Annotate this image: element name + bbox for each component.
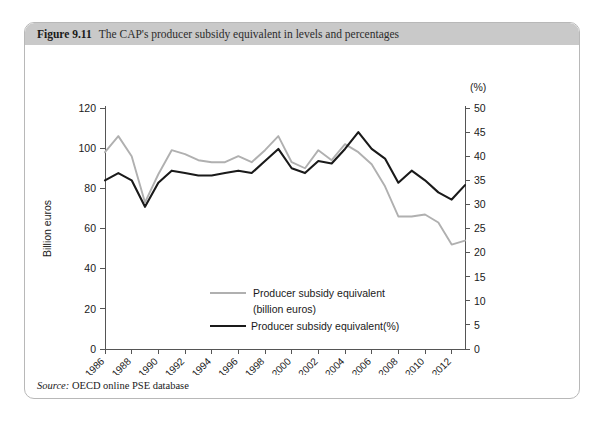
y2-axis-tick-label: 50 (474, 102, 486, 114)
y2-axis-tick-label: 25 (474, 222, 486, 234)
y-axis-tick-label: 60 (84, 222, 96, 234)
chart-plot-area: 020406080100120Billion euros 05101520253… (25, 45, 580, 375)
figure-number: Figure 9.11 (37, 28, 92, 40)
source-text: OECD online PSE database (72, 380, 189, 391)
y-axis-tick-label: 20 (84, 303, 96, 315)
y2-axis-tick-label: 5 (474, 319, 480, 331)
x-axis-tick-label: 1986 (83, 355, 107, 375)
x-axis-tick-label: 2010 (403, 355, 427, 375)
chart-legend: Producer subsidy equivalent(billion euro… (210, 287, 399, 332)
source-note: Source: OECD online PSE database (37, 380, 189, 391)
x-axis-tick-label: 2012 (430, 355, 454, 375)
legend-label-billion-euros: Producer subsidy equivalent (253, 287, 385, 299)
series-line-1 (105, 136, 465, 244)
y2-axis-tick-label: 40 (474, 150, 486, 162)
x-axis-tick-label: 2006 (350, 355, 374, 375)
y-axis-tick-label: 80 (84, 182, 96, 194)
x-axis-tick-label: 2000 (270, 355, 294, 375)
x-axis-tick-label: 1998 (243, 355, 267, 375)
y-axis-title: Billion euros (41, 200, 53, 257)
y-axis-tick-label: 40 (84, 262, 96, 274)
y-axis-tick-label: 120 (78, 102, 96, 114)
y2-axis-tick-label: 15 (474, 271, 486, 283)
y2-axis-tick-label: 10 (474, 295, 486, 307)
x-axis-tick-label: 1988 (110, 355, 134, 375)
y-axis-right: 05101520253035404550(%) (465, 81, 486, 355)
data-series-group (105, 132, 465, 244)
y2-axis-tick-label: 0 (474, 343, 480, 355)
y-axis-tick-label: 0 (90, 343, 96, 355)
legend-label-percent: Producer subsidy equivalent(%) (251, 320, 399, 332)
x-axis-tick-label: 1992 (163, 355, 187, 375)
figure-title-bar: Figure 9.11 The CAP's producer subsidy e… (25, 23, 579, 45)
y-axis-left: 020406080100120Billion euros (41, 102, 105, 355)
series-line-2 (105, 132, 465, 207)
x-axis-tick-label: 2004 (323, 355, 347, 375)
y2-axis-tick-label: 20 (474, 246, 486, 258)
x-axis: 1986198819901992199419961998200020022004… (83, 349, 465, 375)
y2-axis-tick-label: 45 (474, 126, 486, 138)
y2-axis-tick-label: 35 (474, 174, 486, 186)
y-axis-tick-label: 100 (78, 142, 96, 154)
y2-axis-tick-label: 30 (474, 198, 486, 210)
x-axis-tick-label: 2002 (296, 355, 320, 375)
figure-caption: The CAP's producer subsidy equivalent in… (99, 28, 399, 40)
x-axis-tick-label: 1994 (190, 355, 214, 375)
legend-label-billion-euros-unit: (billion euros) (253, 303, 316, 315)
x-axis-tick-label: 1996 (216, 355, 240, 375)
source-label: Source: (37, 380, 69, 391)
y2-axis-title: (%) (470, 81, 486, 93)
x-axis-tick-label: 2008 (376, 355, 400, 375)
x-axis-tick-label: 1990 (136, 355, 160, 375)
figure-container: Figure 9.11 The CAP's producer subsidy e… (24, 22, 580, 399)
line-chart: 020406080100120Billion euros 05101520253… (25, 45, 580, 375)
